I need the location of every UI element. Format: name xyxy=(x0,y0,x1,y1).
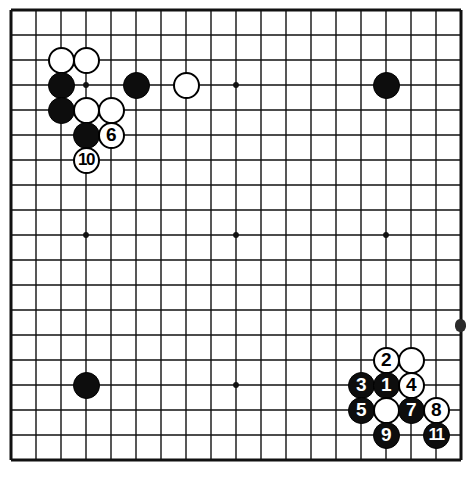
stone-black-move-1[interactable]: 1 xyxy=(373,372,400,399)
stone-white[interactable] xyxy=(73,47,100,74)
star-point xyxy=(233,382,239,388)
stone-black[interactable] xyxy=(373,72,400,99)
stone-black-move-7[interactable]: 7 xyxy=(398,397,425,424)
stone-black[interactable] xyxy=(123,72,150,99)
stone-black-move-9[interactable]: 9 xyxy=(373,422,400,449)
stone-white[interactable] xyxy=(373,397,400,424)
stone-white-move-10[interactable]: 10 xyxy=(73,147,100,174)
star-point xyxy=(233,82,239,88)
star-point xyxy=(83,82,89,88)
stone-white[interactable] xyxy=(173,72,200,99)
star-point xyxy=(383,232,389,238)
stone-black[interactable] xyxy=(48,72,75,99)
stone-black[interactable] xyxy=(48,97,75,124)
stone-white-move-4[interactable]: 4 xyxy=(398,372,425,399)
stone-white-move-2[interactable]: 2 xyxy=(373,347,400,374)
move-number: 10 xyxy=(78,151,94,168)
stone-white[interactable] xyxy=(398,347,425,374)
move-number: 7 xyxy=(406,400,416,419)
move-number: 1 xyxy=(381,375,391,394)
move-number: 9 xyxy=(381,425,391,444)
move-number: 11 xyxy=(429,426,444,443)
right-edge-mark xyxy=(455,319,466,332)
stone-white[interactable] xyxy=(73,97,100,124)
move-number: 3 xyxy=(356,375,366,394)
stone-black-move-5[interactable]: 5 xyxy=(348,397,375,424)
move-number: 2 xyxy=(381,350,391,369)
stone-white-move-8[interactable]: 8 xyxy=(423,397,450,424)
stone-black[interactable] xyxy=(73,122,100,149)
star-point xyxy=(83,232,89,238)
stone-white[interactable] xyxy=(98,97,125,124)
stone-black-move-11[interactable]: 11 xyxy=(423,422,450,449)
stone-white-move-6[interactable]: 6 xyxy=(98,122,125,149)
star-point xyxy=(233,232,239,238)
stone-black-move-3[interactable]: 3 xyxy=(348,372,375,399)
move-number: 6 xyxy=(106,125,116,144)
stone-white[interactable] xyxy=(48,47,75,74)
stone-black[interactable] xyxy=(73,372,100,399)
move-number: 4 xyxy=(406,375,416,394)
move-number: 8 xyxy=(431,400,441,419)
go-diagram-figure: 6102314578911 xyxy=(0,0,476,497)
move-number: 5 xyxy=(356,400,366,419)
